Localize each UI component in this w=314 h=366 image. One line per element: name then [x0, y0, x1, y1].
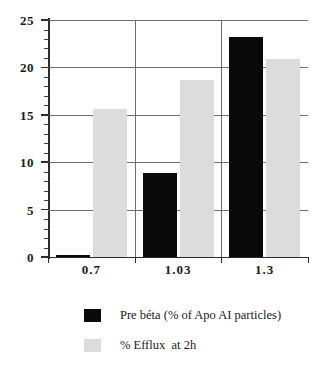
y-axis-minor-tick: [44, 248, 49, 249]
y-axis-minor-tick: [44, 153, 49, 154]
y-axis-minor-tick: [44, 48, 49, 49]
y-axis-minor-tick: [44, 219, 49, 220]
bar-chart: 05101520250.71.031.3 Pre béta (% of Apo …: [0, 0, 314, 366]
x-axis-tick-label: 1.3: [221, 262, 308, 278]
y-axis-minor-tick: [44, 181, 49, 182]
x-axis-tick-label: 1.03: [135, 262, 222, 278]
y-axis-minor-tick: [44, 134, 49, 135]
y-axis-tick-label: 25: [0, 14, 34, 27]
y-axis-minor-tick: [44, 191, 49, 192]
y-axis-tick-label: 0: [0, 251, 34, 264]
y-axis-tick: [41, 19, 49, 21]
y-axis-minor-tick: [44, 229, 49, 230]
y-axis-minor-tick: [44, 172, 49, 173]
y-axis-tick: [41, 209, 49, 211]
x-axis-tick-label: 0.7: [48, 262, 135, 278]
y-axis-minor-tick: [44, 30, 49, 31]
legend-item: Pre béta (% of Apo AI particles): [84, 300, 314, 330]
y-axis-minor-tick: [44, 143, 49, 144]
y-axis-minor-tick: [44, 86, 49, 87]
y-axis-tick: [41, 67, 49, 69]
legend-label: % Efflux at 2h: [120, 338, 196, 353]
x-axis-tick: [308, 257, 309, 263]
y-axis-minor-tick: [44, 39, 49, 40]
y-axis-tick-label: 15: [0, 109, 34, 122]
y-axis-minor-tick: [44, 124, 49, 125]
y-axis-minor-tick: [44, 200, 49, 201]
y-axis-tick: [41, 161, 49, 163]
y-axis-tick-label: 10: [0, 156, 34, 169]
legend-item: % Efflux at 2h: [84, 330, 314, 360]
y-axis-minor-tick: [44, 96, 49, 97]
chart-legend: Pre béta (% of Apo AI particles) % Efflu…: [84, 300, 314, 360]
y-axis-tick-label: 5: [0, 204, 34, 217]
y-axis-minor-tick: [44, 77, 49, 78]
y-axis-minor-tick: [44, 238, 49, 239]
y-axis-minor-tick: [44, 105, 49, 106]
gray-swatch-icon: [84, 339, 101, 352]
legend-label: Pre béta (% of Apo AI particles): [120, 308, 281, 323]
y-axis-tick: [41, 114, 49, 116]
black-swatch-icon: [84, 309, 101, 322]
y-axis-minor-tick: [44, 58, 49, 59]
y-axis-tick-label: 20: [0, 61, 34, 74]
